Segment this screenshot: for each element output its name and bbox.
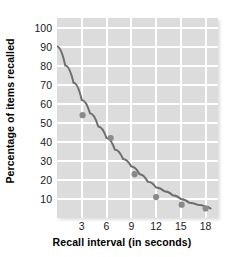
data-point xyxy=(203,205,209,211)
plot-area xyxy=(57,18,218,218)
y-tick-label: 40 xyxy=(40,137,52,148)
data-point xyxy=(132,171,138,177)
y-tick-label: 50 xyxy=(40,118,52,129)
y-tick-label: 70 xyxy=(40,79,52,90)
y-tick-label: 100 xyxy=(34,22,52,33)
y-tick-label: 60 xyxy=(40,98,52,109)
data-point xyxy=(79,112,85,118)
y-axis-tick-labels: 102030405060708090100 xyxy=(20,18,54,218)
x-axis-tick-labels: 369121518 xyxy=(57,221,218,237)
y-tick-label: 20 xyxy=(40,175,52,186)
data-point xyxy=(179,202,185,208)
data-point xyxy=(108,135,114,141)
x-tick-label: 12 xyxy=(150,221,162,232)
y-tick-label: 30 xyxy=(40,156,52,167)
y-axis-title-text: Percentage of items recalled xyxy=(4,38,16,183)
y-tick-label: 80 xyxy=(40,60,52,71)
plot-svg xyxy=(57,18,218,218)
x-tick-label: 18 xyxy=(200,221,212,232)
forgetting-curve-chart: Percentage of items recalled 10203040506… xyxy=(0,0,244,257)
x-tick-label: 15 xyxy=(175,221,187,232)
y-tick-label: 90 xyxy=(40,41,52,52)
data-point xyxy=(153,194,159,200)
y-axis-title: Percentage of items recalled xyxy=(0,0,20,222)
x-tick-label: 3 xyxy=(79,221,85,232)
x-tick-label: 6 xyxy=(104,221,110,232)
y-tick-label: 10 xyxy=(40,194,52,205)
x-tick-label: 9 xyxy=(128,221,134,232)
x-axis-title: Recall interval (in seconds) xyxy=(0,236,244,248)
forgetting-curve-line xyxy=(57,47,211,209)
